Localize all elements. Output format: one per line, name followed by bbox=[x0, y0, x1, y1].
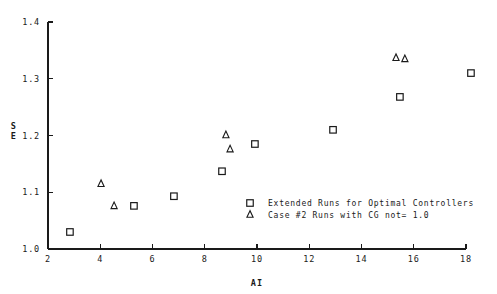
data-point-square bbox=[171, 193, 178, 200]
y-axis-title-line-1: S bbox=[11, 121, 17, 131]
data-point-triangle bbox=[98, 180, 104, 187]
data-point-square bbox=[252, 141, 259, 148]
x-axis-title: AI bbox=[251, 278, 264, 288]
x-tick-label: 12 bbox=[303, 254, 315, 264]
chart-legend: Extended Runs for Optimal ControllersCas… bbox=[247, 199, 474, 220]
data-point-triangle bbox=[111, 202, 117, 209]
data-point-square bbox=[247, 200, 254, 207]
legend-label-2: Case #2 Runs with CG not= 1.0 bbox=[268, 211, 429, 220]
data-point-triangle bbox=[402, 55, 408, 62]
x-axis-tick-labels: 24681012141618 bbox=[45, 254, 472, 264]
series-2-points bbox=[98, 54, 408, 209]
x-tick-label: 2 bbox=[45, 254, 51, 264]
x-tick-label: 8 bbox=[202, 254, 208, 264]
data-point-triangle bbox=[223, 131, 229, 138]
y-tick-label: 1.2 bbox=[22, 131, 40, 141]
scatter-chart-figure: 24681012141618 1.01.11.21.31.4 Extended … bbox=[0, 0, 497, 294]
x-tick-label: 10 bbox=[251, 254, 263, 264]
data-point-square bbox=[219, 168, 226, 175]
x-tick-label: 6 bbox=[150, 254, 156, 264]
data-point-square bbox=[131, 203, 138, 210]
data-point-triangle bbox=[393, 54, 399, 61]
data-point-square bbox=[67, 229, 74, 236]
data-point-triangle bbox=[227, 145, 233, 152]
x-tick-label: 4 bbox=[97, 254, 103, 264]
data-point-square bbox=[330, 127, 337, 134]
plot-canvas: 24681012141618 1.01.11.21.31.4 Extended … bbox=[0, 0, 497, 294]
data-point-triangle bbox=[247, 211, 253, 218]
x-tick-label: 16 bbox=[408, 254, 420, 264]
data-points bbox=[67, 54, 475, 235]
y-axis-title-line-2: E bbox=[11, 131, 17, 141]
x-tick-label: 18 bbox=[460, 254, 472, 264]
y-tick-label: 1.3 bbox=[22, 74, 40, 84]
x-tick-label: 14 bbox=[356, 254, 368, 264]
y-axis-tick-labels: 1.01.11.21.31.4 bbox=[22, 17, 40, 254]
legend-label-1: Extended Runs for Optimal Controllers bbox=[268, 199, 474, 208]
y-tick-label: 1.0 bbox=[22, 244, 40, 254]
y-tick-label: 1.4 bbox=[22, 17, 40, 27]
data-point-square bbox=[397, 94, 404, 101]
data-point-square bbox=[468, 70, 475, 77]
y-tick-label: 1.1 bbox=[22, 187, 40, 197]
